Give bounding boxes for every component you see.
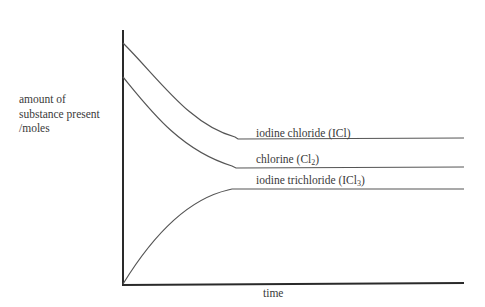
- equilibrium-chart: [0, 0, 485, 307]
- y-axis-label: amount of substance present /moles: [19, 92, 100, 136]
- curve-iodine-trichloride: [123, 189, 464, 284]
- x-axis: [122, 283, 464, 285]
- label-chlorine: chlorine (Cl2): [256, 153, 319, 167]
- label-end: ): [361, 174, 365, 186]
- y-axis-label-line-1: amount of: [19, 92, 100, 107]
- curve-iodine-chloride: [123, 43, 464, 139]
- x-axis-label: time: [263, 287, 283, 299]
- label-text: chlorine (Cl: [256, 153, 311, 165]
- label-text: iodine chloride (ICl): [256, 127, 351, 139]
- y-axis-label-line-2: substance present: [19, 107, 100, 122]
- label-iodine-trichloride: iodine trichloride (ICl3): [256, 174, 365, 188]
- label-iodine-chloride: iodine chloride (ICl): [256, 127, 351, 139]
- label-end: ): [315, 153, 319, 165]
- label-text: iodine trichloride (ICl: [256, 174, 357, 186]
- y-axis-label-line-3: /moles: [19, 121, 100, 136]
